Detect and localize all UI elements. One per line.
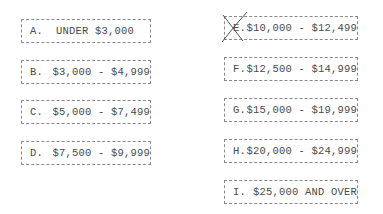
option-letter: E. [233,22,246,34]
option-label: $15,000 - $19,999 [246,104,357,116]
option-label: $10,000 - $12,499 [246,22,357,34]
option-letter: D. [30,147,52,159]
option-letter: A. [30,25,56,37]
option-label: $5,000 - $7,499 [52,106,150,118]
option-d[interactable]: D. $7,500 - $9,999 [21,141,151,165]
option-letter: B. [30,66,52,78]
option-g[interactable]: G. $15,000 - $19,999 [224,98,358,122]
option-i[interactable]: I. $25,000 AND OVER [224,180,358,204]
option-letter: H. [233,145,246,157]
option-label: UNDER $3,000 [56,25,134,37]
option-letter: I. [233,186,253,198]
option-label: $20,000 - $24,999 [246,145,357,157]
option-label: $7,500 - $9,999 [52,147,150,159]
option-b[interactable]: B. $3,000 - $4,999 [21,60,151,84]
option-label: $3,000 - $4,999 [52,66,150,78]
option-f[interactable]: F. $12,500 - $14,999 [224,57,358,81]
option-letter: F. [233,63,246,75]
option-e[interactable]: E. $10,000 - $12,499 [224,16,358,40]
option-letter: G. [233,104,246,116]
option-letter: C. [30,106,52,118]
option-h[interactable]: H. $20,000 - $24,999 [224,139,358,163]
option-c[interactable]: C. $5,000 - $7,499 [21,100,151,124]
option-label: $25,000 AND OVER [253,186,357,198]
option-label: $12,500 - $14,999 [246,63,357,75]
option-a[interactable]: A. UNDER $3,000 [21,19,151,43]
